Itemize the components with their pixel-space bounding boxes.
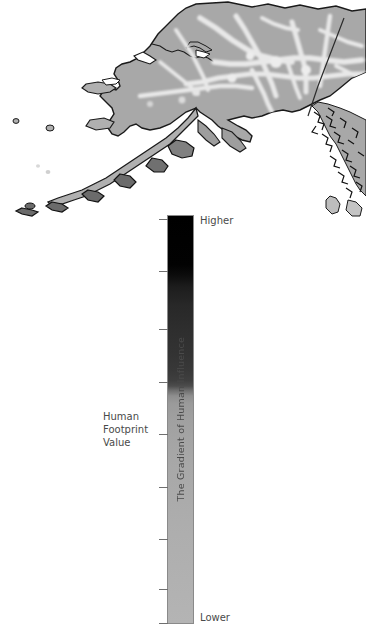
colorbar-legend: The Gradient of Human Influence 100 80 6… xyxy=(0,206,366,636)
tick-mark xyxy=(159,434,168,435)
axis-title-line-1: Human xyxy=(103,410,155,423)
tick-mark xyxy=(159,623,168,624)
tick-mark xyxy=(159,539,168,540)
alaska-map xyxy=(0,0,366,218)
axis-title: Human Footprint Value xyxy=(103,410,155,449)
tick-mark xyxy=(159,271,168,272)
map-panel xyxy=(0,0,366,218)
axis-title-line-3: Value xyxy=(103,436,155,449)
higher-label: Higher xyxy=(200,215,233,226)
tick-mark xyxy=(159,589,168,590)
tick-mark xyxy=(159,329,168,330)
axis-title-line-2: Footprint xyxy=(103,423,155,436)
gradient-colorbar xyxy=(167,215,194,624)
tick-mark xyxy=(159,382,168,383)
tick-mark xyxy=(159,487,168,488)
lower-label: Lower xyxy=(200,612,230,623)
tick-mark xyxy=(159,219,168,220)
